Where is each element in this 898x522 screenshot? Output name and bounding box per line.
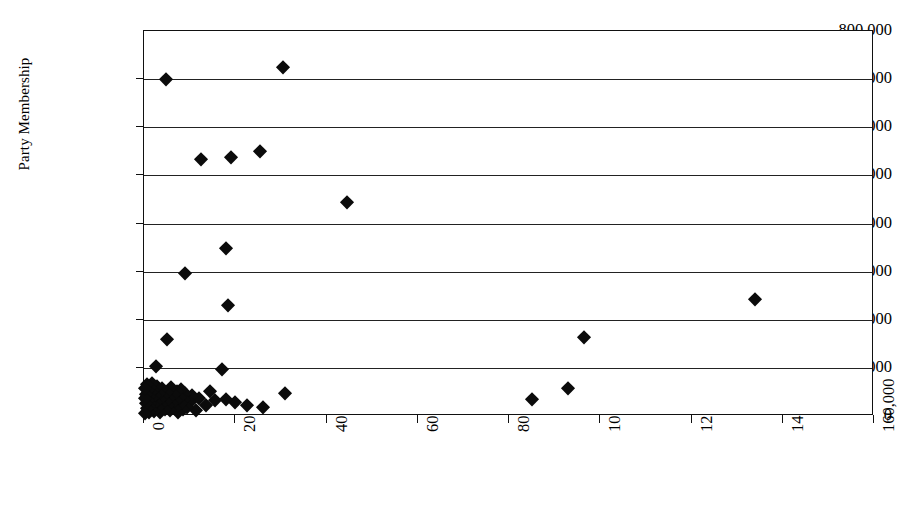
- data-point: [194, 152, 207, 165]
- data-point: [256, 401, 269, 414]
- gridline: [144, 127, 872, 128]
- data-point: [222, 299, 235, 312]
- x-tick-label: 80,000: [516, 416, 533, 432]
- x-tick-label: 160,000: [881, 416, 898, 432]
- data-point: [254, 145, 267, 158]
- data-point: [224, 150, 237, 163]
- gridline: [144, 175, 872, 176]
- data-point: [149, 360, 162, 373]
- x-tick-label: 120,000: [699, 416, 716, 432]
- gridline: [144, 224, 872, 225]
- x-tick-mark: [782, 415, 783, 423]
- x-tick-mark: [508, 415, 509, 423]
- data-point: [219, 241, 232, 254]
- x-tick-label: 40,000: [334, 416, 351, 432]
- x-tick-label: 20,000: [242, 416, 259, 432]
- x-tick-mark: [326, 415, 327, 423]
- x-tick-mark: [691, 415, 692, 423]
- data-point: [749, 292, 762, 305]
- x-tick-mark: [234, 415, 235, 423]
- data-point: [160, 332, 173, 345]
- x-tick-label: 0: [151, 422, 168, 432]
- data-point: [276, 60, 289, 73]
- gridline: [144, 368, 872, 369]
- data-point: [279, 386, 292, 399]
- data-point: [159, 72, 172, 85]
- x-tick-label: 140,000: [790, 416, 807, 432]
- plot-area: [143, 30, 873, 415]
- data-point: [525, 392, 538, 405]
- data-point: [578, 330, 591, 343]
- y-axis-title: Party Membership: [16, 4, 36, 224]
- x-tick-mark: [873, 415, 874, 423]
- gridline: [144, 272, 872, 273]
- gridline: [144, 320, 872, 321]
- data-point: [178, 266, 191, 279]
- x-tick-mark: [599, 415, 600, 423]
- data-point: [240, 399, 253, 412]
- data-point: [562, 381, 575, 394]
- chart-title-clipped: [0, 0, 892, 9]
- data-point: [340, 195, 353, 208]
- x-tick-label: 60,000: [425, 416, 442, 432]
- x-tick-label: 100,000: [607, 416, 624, 432]
- data-point: [215, 362, 228, 375]
- gridline: [144, 79, 872, 80]
- x-tick-mark: [417, 415, 418, 423]
